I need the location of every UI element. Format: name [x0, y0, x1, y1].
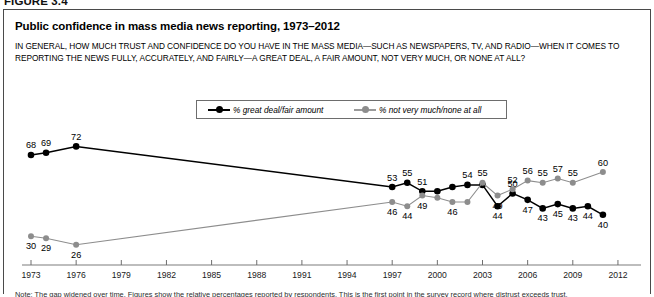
svg-text:52: 52 — [507, 175, 517, 185]
svg-text:53: 53 — [387, 173, 397, 183]
svg-text:44: 44 — [402, 211, 412, 221]
svg-text:40: 40 — [598, 220, 608, 230]
svg-text:1991: 1991 — [292, 270, 311, 280]
svg-text:2003: 2003 — [473, 270, 492, 280]
svg-text:46: 46 — [447, 207, 457, 217]
svg-text:1979: 1979 — [112, 270, 131, 280]
svg-text:46: 46 — [387, 207, 397, 217]
line-chart-plot: 1973197619791982198519881991199419972000… — [0, 0, 654, 297]
svg-text:1985: 1985 — [202, 270, 221, 280]
svg-text:43: 43 — [538, 213, 548, 223]
svg-text:60: 60 — [598, 158, 608, 168]
svg-text:30: 30 — [26, 241, 36, 251]
svg-text:68: 68 — [26, 140, 36, 150]
svg-text:1976: 1976 — [67, 270, 86, 280]
svg-text:1982: 1982 — [157, 270, 176, 280]
svg-text:47: 47 — [523, 205, 533, 215]
svg-text:45: 45 — [553, 209, 563, 219]
svg-text:57: 57 — [553, 164, 563, 174]
svg-text:2000: 2000 — [428, 270, 447, 280]
svg-text:2012: 2012 — [608, 270, 627, 280]
svg-text:43: 43 — [568, 213, 578, 223]
svg-text:44: 44 — [492, 211, 502, 221]
svg-text:56: 56 — [523, 166, 533, 176]
svg-text:1994: 1994 — [337, 270, 356, 280]
svg-text:55: 55 — [538, 168, 548, 178]
svg-text:55: 55 — [568, 168, 578, 178]
svg-text:55: 55 — [477, 168, 487, 178]
svg-text:2006: 2006 — [518, 270, 537, 280]
svg-text:26: 26 — [71, 250, 81, 260]
svg-text:1997: 1997 — [383, 270, 402, 280]
svg-text:54: 54 — [462, 170, 472, 180]
figure-note: Note: The gap widened over time. Figures… — [15, 290, 645, 297]
svg-text:1988: 1988 — [247, 270, 266, 280]
svg-text:72: 72 — [71, 132, 81, 142]
figure-container: FIGURE 3.4 Public confidence in mass med… — [0, 0, 654, 297]
svg-text:51: 51 — [417, 177, 427, 187]
svg-text:1973: 1973 — [21, 270, 40, 280]
svg-text:29: 29 — [41, 243, 51, 253]
svg-text:2009: 2009 — [563, 270, 582, 280]
svg-text:44: 44 — [583, 211, 593, 221]
svg-text:49: 49 — [492, 201, 502, 211]
svg-text:49: 49 — [417, 201, 427, 211]
svg-text:55: 55 — [402, 168, 412, 178]
svg-text:69: 69 — [41, 138, 51, 148]
